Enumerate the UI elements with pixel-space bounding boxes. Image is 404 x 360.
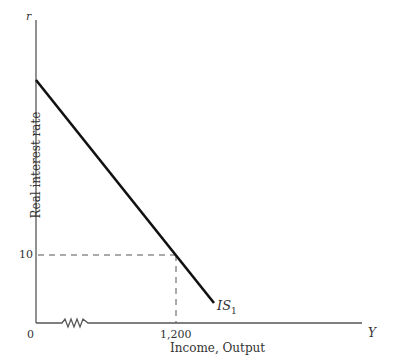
is1-curve bbox=[36, 80, 214, 303]
x-axis-title: Income, Output bbox=[170, 341, 265, 355]
chart-canvas bbox=[0, 0, 404, 360]
y-axis-title: Real interest rate bbox=[29, 105, 43, 225]
is1-label: IS1 bbox=[217, 298, 237, 316]
is1-label-main: IS bbox=[217, 298, 231, 313]
y-axis-symbol: r bbox=[26, 10, 31, 23]
y-tick-10: 10 bbox=[19, 248, 33, 261]
is1-label-subscript: 1 bbox=[231, 306, 237, 316]
x-axis bbox=[36, 319, 362, 327]
is-curve-chart: r 10 0 1,200 Income, Output Y IS1 Real i… bbox=[0, 0, 404, 360]
origin-label: 0 bbox=[27, 328, 34, 341]
x-axis-symbol: Y bbox=[368, 326, 376, 340]
x-tick-1200: 1,200 bbox=[160, 328, 192, 341]
